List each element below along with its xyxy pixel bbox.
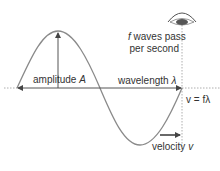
frequency-label-line2: per second bbox=[128, 43, 179, 55]
wavelength-symbol: λ bbox=[171, 75, 176, 86]
equation-label: v = fλ bbox=[186, 94, 210, 106]
velocity-symbol: v bbox=[188, 141, 193, 152]
eye-icon bbox=[168, 13, 196, 25]
wavelength-label: wavelength λ bbox=[118, 75, 176, 87]
amplitude-label: amplitude A bbox=[33, 74, 86, 86]
velocity-label: velocity v bbox=[152, 141, 193, 153]
frequency-label-line1: f waves pass bbox=[128, 31, 179, 43]
amplitude-symbol: A bbox=[79, 74, 86, 85]
